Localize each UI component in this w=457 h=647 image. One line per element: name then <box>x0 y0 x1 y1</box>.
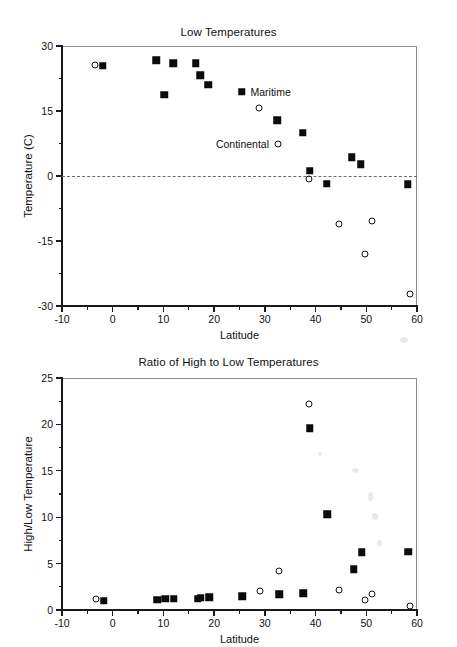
data-point-maritime <box>299 129 307 137</box>
x-tick-minor <box>340 610 341 614</box>
data-point-continental <box>306 400 313 407</box>
x-tick-major <box>163 306 164 312</box>
y-tick-major <box>56 377 62 378</box>
data-point-maritime <box>161 91 169 99</box>
data-point-maritime <box>205 593 213 601</box>
data-point-maritime <box>99 62 107 70</box>
x-tick-minor <box>137 610 138 614</box>
x-tick-major <box>61 306 62 312</box>
x-tick-label: 0 <box>110 617 116 629</box>
x-tick-major <box>366 306 367 312</box>
x-tick-major <box>315 610 316 616</box>
x-tick-label: 20 <box>208 617 220 629</box>
x-tick-minor <box>239 306 240 310</box>
x-tick-minor <box>391 306 392 310</box>
y-tick-label: 15 <box>41 465 53 477</box>
figure-low-temperatures: Low Temperatures Temperature (C) Latitud… <box>0 0 457 330</box>
x-tick-major <box>416 610 417 616</box>
y-tick-major <box>56 45 62 46</box>
scan-artifact <box>318 452 322 456</box>
plot-frame <box>62 378 417 610</box>
x-tick-label: 30 <box>259 313 271 325</box>
y-tick-label: -15 <box>38 235 53 247</box>
data-point-maritime <box>275 590 283 598</box>
data-point-maritime <box>153 57 161 65</box>
x-tick-minor <box>340 306 341 310</box>
y-tick-label: 5 <box>47 558 53 570</box>
data-point-maritime <box>192 60 200 68</box>
x-tick-minor <box>87 306 88 310</box>
x-tick-label: 50 <box>360 617 372 629</box>
y-tick-minor <box>59 540 63 541</box>
x-tick-minor <box>137 306 138 310</box>
x-axis-title-ratio-high-low: Latitude <box>220 633 259 645</box>
data-point-continental <box>275 140 282 147</box>
y-tick-major <box>56 110 62 111</box>
data-point-maritime <box>204 81 212 89</box>
zero-reference-line <box>62 176 417 177</box>
y-tick-minor <box>59 401 63 402</box>
data-point-maritime <box>197 71 205 79</box>
data-point-maritime <box>323 511 331 519</box>
x-tick-label: 0 <box>110 313 116 325</box>
data-point-continental <box>93 595 100 602</box>
data-point-continental <box>368 591 375 598</box>
x-tick-major <box>61 610 62 616</box>
y-tick-minor <box>59 143 63 144</box>
x-tick-major <box>264 610 265 616</box>
data-point-maritime <box>238 88 246 96</box>
y-tick-label: 15 <box>41 105 53 117</box>
x-tick-major <box>112 306 113 312</box>
data-point-maritime <box>348 154 356 162</box>
data-point-continental <box>305 176 312 183</box>
data-point-maritime <box>300 590 308 598</box>
x-tick-minor <box>290 610 291 614</box>
data-point-maritime <box>350 565 358 573</box>
y-tick-major <box>56 424 62 425</box>
x-tick-label: 20 <box>208 313 220 325</box>
data-point-maritime <box>323 180 331 188</box>
y-tick-label: 20 <box>41 418 53 430</box>
chart-title-low-temperatures: Low Temperatures <box>0 26 457 38</box>
y-tick-label: 0 <box>47 604 53 616</box>
x-tick-minor <box>391 610 392 614</box>
data-point-maritime <box>170 595 178 603</box>
data-point-continental <box>256 587 263 594</box>
data-point-maritime <box>404 180 412 188</box>
y-tick-minor <box>59 447 63 448</box>
x-tick-label: 50 <box>360 313 372 325</box>
x-tick-minor <box>290 306 291 310</box>
x-tick-label: -10 <box>54 313 69 325</box>
x-tick-minor <box>239 610 240 614</box>
data-point-maritime <box>154 596 162 604</box>
x-tick-label: -10 <box>54 617 69 629</box>
data-point-maritime <box>162 595 170 603</box>
data-point-maritime <box>273 116 281 124</box>
x-tick-major <box>213 610 214 616</box>
data-point-continental <box>335 220 342 227</box>
x-tick-major <box>163 610 164 616</box>
data-point-continental <box>92 61 99 68</box>
data-point-maritime <box>358 549 366 557</box>
data-point-maritime <box>100 597 108 605</box>
y-tick-label: -30 <box>38 300 53 312</box>
y-tick-label: 0 <box>47 170 53 182</box>
scan-artifact <box>372 513 378 520</box>
scan-artifact <box>368 492 373 501</box>
data-point-maritime <box>238 592 246 600</box>
x-tick-label: 60 <box>411 313 423 325</box>
y-tick-minor <box>59 273 63 274</box>
scan-artifact <box>400 337 408 343</box>
data-point-continental <box>362 596 369 603</box>
data-point-maritime <box>306 424 314 432</box>
data-point-continental <box>256 104 263 111</box>
x-tick-label: 60 <box>411 617 423 629</box>
data-point-maritime <box>357 161 365 169</box>
x-tick-label: 40 <box>310 617 322 629</box>
annotation-maritime: Maritime <box>251 86 291 98</box>
y-axis-title-low-temperatures: Temperature (C) <box>22 116 34 236</box>
annotation-continental: Continental <box>216 138 269 150</box>
data-point-continental <box>369 218 376 225</box>
x-tick-label: 10 <box>158 313 170 325</box>
x-tick-label: 40 <box>310 313 322 325</box>
